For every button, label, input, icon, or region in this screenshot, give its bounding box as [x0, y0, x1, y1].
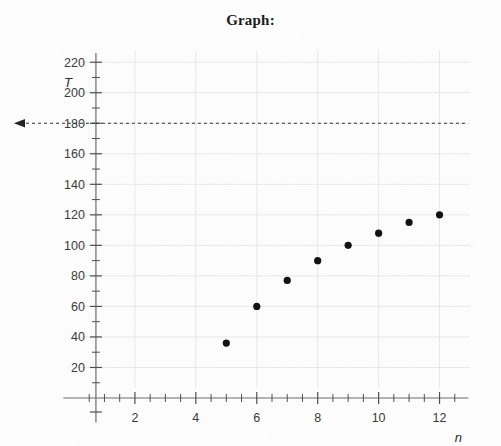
data-point[interactable] [223, 339, 230, 346]
x-tick-label: 8 [314, 411, 321, 425]
y-tick-label: 120 [64, 208, 85, 222]
y-tick-label: 220 [64, 56, 85, 70]
scatter-plot: 2040608010012014016018020022024681012Tn [0, 0, 501, 446]
y-tick-label: 140 [64, 178, 85, 192]
y-axis-label: T [64, 75, 73, 90]
data-point[interactable] [375, 230, 382, 237]
y-tick-label: 40 [71, 330, 85, 344]
x-tick-label: 12 [433, 411, 447, 425]
y-tick-label: 20 [71, 361, 85, 375]
data-point[interactable] [284, 277, 291, 284]
y-tick-label: 160 [64, 147, 85, 161]
y-tick-label: 80 [71, 269, 85, 283]
x-tick-label: 6 [253, 411, 260, 425]
x-tick-label: 10 [372, 411, 386, 425]
data-point[interactable] [436, 211, 443, 218]
data-point[interactable] [405, 219, 412, 226]
left-arrow-icon [14, 119, 25, 127]
chart-page: Graph: 204060801001201401601802002202468… [0, 0, 501, 446]
data-point[interactable] [345, 242, 352, 249]
x-tick-label: 4 [192, 411, 199, 425]
data-point[interactable] [314, 257, 321, 264]
y-tick-label: 100 [64, 239, 85, 253]
x-tick-label: 2 [131, 411, 138, 425]
y-tick-label: 60 [71, 300, 85, 314]
x-axis-label: n [455, 430, 462, 445]
data-point[interactable] [253, 303, 260, 310]
